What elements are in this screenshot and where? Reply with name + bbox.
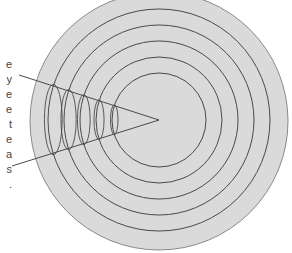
clipped-caption-text: eyeeteas. — [0, 0, 12, 253]
caption-fragment: a — [6, 149, 12, 160]
caption-fragment: e — [6, 89, 12, 100]
caption-fragment: e — [6, 59, 12, 70]
outer-disk — [30, 0, 288, 250]
caption-fragment: s — [7, 164, 13, 175]
gray-disk — [30, 0, 288, 250]
caption-fragment: e — [6, 104, 12, 115]
diagram-canvas — [0, 0, 292, 253]
caption-fragment: y — [7, 74, 13, 85]
caption-fragment: e — [6, 134, 12, 145]
caption-fragment: t — [9, 119, 12, 130]
concentric-circles-diagram — [0, 0, 292, 253]
caption-fragment: . — [9, 179, 12, 190]
